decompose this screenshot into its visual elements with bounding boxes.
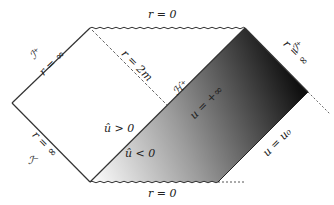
scri-plus-right-dotted (308, 92, 330, 114)
label-top-r0: r = 0 (148, 8, 176, 21)
label-scri-plus-left: ℐ⁺ (27, 45, 44, 62)
label-bottom-r0: r = 0 (148, 187, 176, 200)
penrose-diagram: r = 0 r = 0 ℐ⁺ r = ∞ r = ∞ ℐ⁻ r = 2m ℋ⁺ … (0, 0, 334, 205)
label-uhat-pos: û > 0 (104, 122, 134, 135)
r-2m-dashed-line (92, 30, 167, 105)
top-singularity (90, 27, 245, 29)
label-r-2m: r = 2m (119, 47, 156, 84)
label-uhat-neg: û < 0 (125, 147, 155, 160)
label-scri-minus-left: ℐ⁻ (28, 154, 39, 167)
